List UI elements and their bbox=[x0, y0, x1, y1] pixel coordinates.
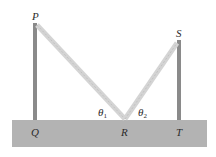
label-p: P bbox=[31, 10, 39, 22]
rope-pr-texture bbox=[37, 25, 125, 119]
label-t: T bbox=[176, 126, 183, 138]
label-r: R bbox=[120, 126, 128, 138]
pole-pq bbox=[33, 23, 37, 120]
rope-diagram: P S Q R T θ1 θ2 bbox=[0, 0, 216, 157]
label-q: Q bbox=[31, 126, 39, 138]
label-s: S bbox=[176, 27, 182, 39]
label-theta2: θ2 bbox=[138, 106, 147, 120]
pole-st bbox=[177, 40, 181, 120]
label-theta1: θ1 bbox=[98, 106, 107, 120]
